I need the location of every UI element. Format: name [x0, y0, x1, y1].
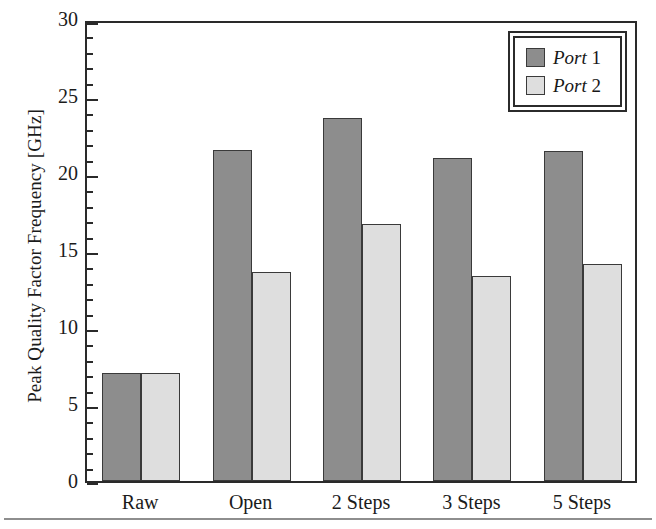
y-axis-major-tick: [87, 23, 98, 25]
legend: Port 1Port 2: [508, 31, 627, 112]
legend-swatch-icon-port-2: [526, 76, 545, 95]
y-axis-tick-label: 10: [20, 316, 78, 339]
bar-3-steps-port-2: [472, 276, 511, 481]
y-axis-minor-tick: [87, 145, 93, 147]
y-axis-minor-tick: [87, 438, 93, 440]
y-axis-minor-tick: [87, 361, 93, 363]
x-axis-tick-label-open: Open: [191, 491, 311, 514]
y-axis-tick-label: 15: [20, 239, 78, 262]
y-axis-minor-tick: [87, 130, 93, 132]
legend-item-port-1: Port 1: [526, 47, 620, 69]
y-axis-major-tick: [87, 99, 98, 101]
bar-open-port-2: [252, 272, 291, 481]
y-axis-minor-tick: [87, 345, 93, 347]
page-separator-rule: [4, 518, 652, 520]
y-axis-minor-tick: [87, 299, 93, 301]
legend-swatch-icon-port-1: [526, 48, 545, 67]
y-axis-minor-tick: [87, 422, 93, 424]
y-axis-major-tick: [87, 253, 98, 255]
y-axis-minor-tick: [87, 84, 93, 86]
y-axis-minor-tick: [87, 315, 93, 317]
y-axis-minor-tick: [87, 161, 93, 163]
bar-3-steps-port-1: [433, 158, 472, 481]
legend-label: Port 1: [553, 47, 601, 69]
bar-2-steps-port-2: [362, 224, 401, 481]
legend-item-port-2: Port 2: [526, 75, 620, 97]
bar-5-steps-port-2: [583, 264, 622, 481]
y-axis-minor-tick: [87, 222, 93, 224]
y-axis-minor-tick: [87, 207, 93, 209]
x-axis-tick-label-3-steps: 3 Steps: [411, 491, 531, 514]
y-axis-minor-tick: [87, 238, 93, 240]
bar-raw-port-2: [141, 373, 180, 481]
y-axis-minor-tick: [87, 376, 93, 378]
y-axis-minor-tick: [87, 68, 93, 70]
y-axis-tick-label: 25: [20, 85, 78, 108]
y-axis-major-tick: [87, 483, 98, 485]
y-axis-minor-tick: [87, 53, 93, 55]
y-axis-tick-label: 20: [20, 162, 78, 185]
bar-chart-figure: Peak Quality Factor Frequency [GHz] 0510…: [0, 0, 656, 529]
y-axis-tick-label: 0: [20, 470, 78, 493]
bar-2-steps-port-1: [323, 118, 362, 481]
bar-raw-port-1: [102, 373, 141, 481]
legend-inner: Port 1Port 2: [513, 36, 622, 107]
x-axis-tick-label-raw: Raw: [80, 491, 200, 514]
y-axis-minor-tick: [87, 284, 93, 286]
y-axis-tick-label: 30: [20, 8, 78, 31]
x-axis-tick-label-5-steps: 5 Steps: [522, 491, 642, 514]
x-axis-tick-label-2-steps: 2 Steps: [301, 491, 421, 514]
y-axis-tick-label: 5: [20, 393, 78, 416]
y-axis-major-tick: [87, 176, 98, 178]
y-axis-minor-tick: [87, 191, 93, 193]
y-axis-minor-tick: [87, 453, 93, 455]
y-axis-minor-tick: [87, 268, 93, 270]
y-axis-minor-tick: [87, 469, 93, 471]
y-axis-minor-tick: [87, 114, 93, 116]
y-axis-major-tick: [87, 407, 98, 409]
y-axis-minor-tick: [87, 392, 93, 394]
y-axis-minor-tick: [87, 37, 93, 39]
legend-label: Port 2: [553, 75, 601, 97]
bar-open-port-1: [213, 150, 252, 481]
bar-5-steps-port-1: [544, 151, 583, 481]
y-axis-major-tick: [87, 330, 98, 332]
